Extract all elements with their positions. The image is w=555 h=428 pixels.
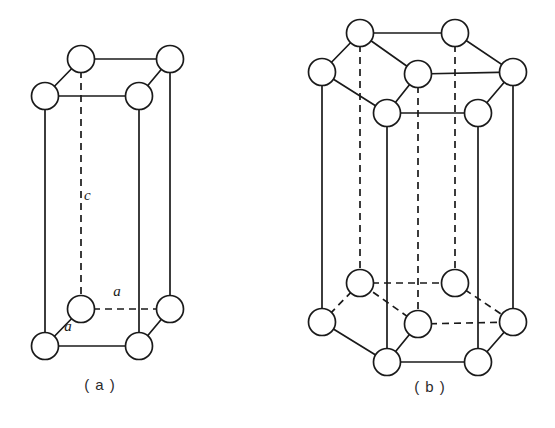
panel-b-atom-top-front-right xyxy=(465,100,492,127)
panel-b-unit-cell: ( b ) xyxy=(309,20,527,396)
panel-b-atom-top-back-right xyxy=(442,20,469,47)
panel-b-atom-top-back-left xyxy=(347,20,374,47)
panel-b-atom-bottom-front-left xyxy=(374,349,401,376)
panel-a-label-a-left: a xyxy=(64,318,72,334)
panel-a-label-c: c xyxy=(84,187,91,203)
panel-a-atom-top-front-right xyxy=(126,83,153,110)
panel-a-unit-cell: c a a ( a ) xyxy=(32,46,184,394)
panel-a-label-a-back: a xyxy=(113,283,121,299)
panel-b-atom-top-left xyxy=(309,59,336,86)
panel-a-atom-bottom-front-right xyxy=(126,333,153,360)
panel-b-atom-top-center xyxy=(405,61,432,88)
panel-b-atom-bottom-back-right xyxy=(442,270,469,297)
panel-a-atom-top-back-left xyxy=(68,46,95,73)
panel-b-atom-bottom-front-right xyxy=(465,349,492,376)
figure-canvas: c a a ( a ) xyxy=(0,0,555,428)
panel-b-atom-bottom-right xyxy=(500,309,527,336)
panel-a-atom-bottom-front-left xyxy=(32,333,59,360)
panel-a-caption: ( a ) xyxy=(84,376,116,393)
panel-a-atom-top-back-right xyxy=(157,46,184,73)
panel-b-atom-top-right xyxy=(500,59,527,86)
panel-b-atom-bottom-center xyxy=(405,311,432,338)
panel-b-atom-top-front-left xyxy=(374,100,401,127)
panel-a-atom-top-front-left xyxy=(32,83,59,110)
panel-b-atom-bottom-left xyxy=(309,309,336,336)
panel-b-atom-bottom-back-left xyxy=(347,270,374,297)
panel-b-caption: ( b ) xyxy=(414,378,446,395)
panel-a-atom-bottom-back-right xyxy=(157,296,184,323)
crystal-structure-figure: c a a ( a ) xyxy=(0,0,555,428)
